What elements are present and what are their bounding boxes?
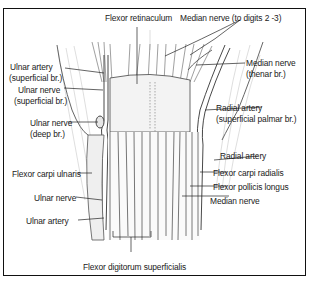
label-ulnar-artery-superficial-sub: (superficial br.)	[9, 73, 62, 83]
label-median-nerve-thenar: Median nerve	[246, 58, 296, 68]
flexor-carpi-ulnaris-muscle	[87, 135, 104, 240]
label-flexor-carpi-ulnaris: Flexor carpi ulnaris	[12, 169, 81, 179]
label-ulnar-nerve-deep: Ulnar nerve	[30, 118, 72, 128]
label-ulnar-nerve: Ulnar nerve	[34, 193, 76, 203]
label-flexor-digitorum-superficialis: Flexor digitorum superficialis	[83, 262, 186, 272]
label-flexor-retinaculum: Flexor retinaculum	[105, 13, 172, 23]
label-radial-artery: Radial artery	[220, 151, 266, 161]
label-median-nerve-digits: Median nerve (to digits 2 -3)	[180, 13, 281, 23]
label-ulnar-nerve-superficial-sub: (superficial br.)	[14, 96, 67, 106]
label-ulnar-nerve-superficial: Ulnar nerve	[18, 85, 60, 95]
label-ulnar-artery-superficial: Ulnar artery	[10, 62, 53, 72]
label-ulnar-artery: Ulnar artery	[26, 216, 69, 226]
label-flexor-carpi-radialis: Flexor carpi radialis	[213, 168, 284, 178]
label-flexor-pollicis-longus: Flexor pollicis longus	[213, 182, 289, 192]
label-median-nerve: Median nerve	[210, 196, 260, 206]
label-radial-artery-palmar: Radial artery	[216, 103, 262, 113]
wrist-anatomy-illustration	[0, 0, 311, 281]
label-median-nerve-thenar-sub: (thenar br.)	[246, 69, 286, 79]
label-radial-artery-palmar-sub: (superficial palmar br.)	[216, 114, 296, 124]
label-ulnar-nerve-deep-sub: (deep br.)	[30, 129, 65, 139]
